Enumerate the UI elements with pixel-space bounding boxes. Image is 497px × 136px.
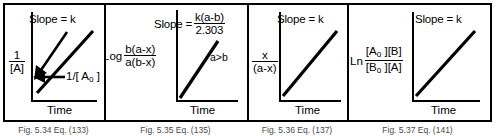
- panel-strip: Slope = k 1 [A] 1/[ Ao ] Time: [3, 3, 492, 122]
- caption-panel-3: Fig. 5.36 Eq. (137): [247, 126, 347, 136]
- panel-second-order-equal-concentrations: Slope = k x (a-x) Time: [249, 5, 349, 120]
- figure-sheet: Slope = k 1 [A] 1/[ Ao ] Time: [0, 0, 497, 136]
- intercept-label-text-panel-1: 1/[ A: [66, 70, 89, 82]
- x-axis-label-panel-1: Time: [47, 104, 72, 116]
- trend-line-panel-4: [349, 5, 490, 120]
- intercept-label-tail-panel-1: ]: [94, 70, 100, 82]
- x-axis-label-panel-2: Time: [190, 104, 215, 116]
- intercept-arrow-panel-1: [5, 5, 106, 120]
- condition-note-panel-2: a>b: [210, 51, 228, 63]
- panel-second-order-mixed-species: Slope = k Ln [Ao ][B] [Bo ][A] Time: [349, 5, 490, 120]
- intercept-label-panel-1: 1/[ Ao ]: [66, 70, 100, 84]
- panel-first-order-inverse-concentration: Slope = k 1 [A] 1/[ Ao ] Time: [5, 5, 106, 120]
- caption-panel-4: Fig. 5.37 Eq. (141): [347, 126, 488, 136]
- x-axis-label-panel-3: Time: [295, 104, 320, 116]
- x-axis-label-panel-4: Time: [431, 104, 456, 116]
- trend-line-panel-3: [249, 5, 349, 120]
- caption-row: Fig. 5.34 Eq. (133) Fig. 5.35 Eq. (135) …: [3, 126, 492, 136]
- panel-second-order-unequal-concentrations: Slope = k(a-b) 2.303 Log b(a-x) a(b-x) a…: [106, 5, 249, 120]
- caption-panel-1: Fig. 5.34 Eq. (133): [3, 126, 104, 136]
- caption-panel-2: Fig. 5.35 Eq. (135): [104, 126, 247, 136]
